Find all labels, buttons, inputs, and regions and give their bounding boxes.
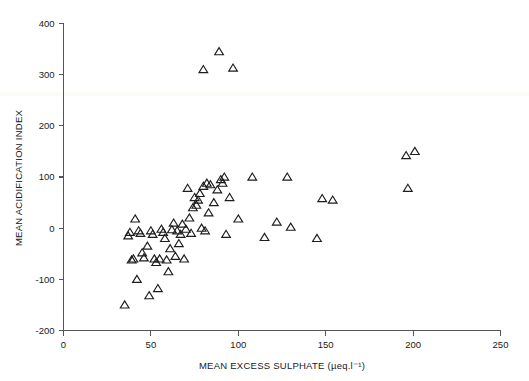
scatter-plot-figure: 050100150200250 -200-1000100200300400 ME… <box>0 0 529 381</box>
y-tick-label: -100 <box>35 274 54 285</box>
y-axis-title: MEAN ACIDIFICATION INDEX <box>13 109 24 246</box>
y-tick-label: -200 <box>35 325 54 336</box>
x-tick-label: 50 <box>146 339 157 350</box>
x-axis-title: MEAN EXCESS SULPHATE (µeq.l⁻¹) <box>199 360 365 371</box>
y-tick-label: 0 <box>49 223 54 234</box>
x-tick-label: 0 <box>61 339 66 350</box>
y-tick-label: 300 <box>39 69 55 80</box>
scan-artifact-band <box>0 92 529 96</box>
figure-background <box>0 0 529 381</box>
y-tick-label: 200 <box>39 120 55 131</box>
plot-canvas: 050100150200250 -200-1000100200300400 ME… <box>0 0 529 381</box>
y-tick-label: 100 <box>39 171 55 182</box>
x-tick-label: 150 <box>318 339 334 350</box>
x-tick-label: 250 <box>493 339 509 350</box>
y-tick-label: 400 <box>39 18 55 29</box>
x-tick-label: 200 <box>405 339 421 350</box>
x-tick-label: 100 <box>230 339 246 350</box>
